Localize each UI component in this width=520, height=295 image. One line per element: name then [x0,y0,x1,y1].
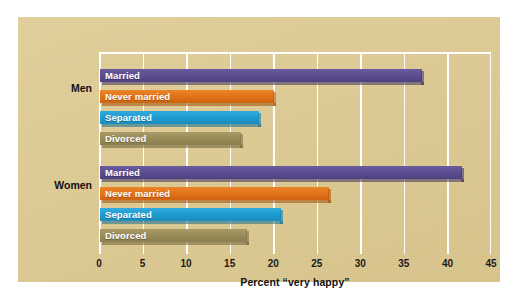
group-label-women: Women [32,179,92,191]
bar-men-never-married[interactable]: Never married [100,90,274,106]
plot-top-border [99,52,491,54]
bar-label-men-divorced: Divorced [105,132,146,145]
bar-shadow [102,200,331,203]
chart-panel: Men Women 051015202530354045 Married Nev… [18,17,500,282]
bar-men-divorced[interactable]: Divorced [100,132,241,148]
bar-women-never-married[interactable]: Never married [100,187,329,203]
x-axis-title: Percent “very happy” [99,276,491,288]
plot-area: 051015202530354045 Married Never married… [99,52,491,254]
chart-root: Men Women 051015202530354045 Married Nev… [0,0,520,295]
bar-shadow [102,82,424,85]
bar-men-separated[interactable]: Separated [100,111,259,127]
plot-right-border [490,52,492,254]
x-tick-10: 10 [181,258,192,269]
x-tick-0: 0 [96,258,102,269]
x-tick-30: 30 [355,258,366,269]
gridline-40 [447,52,449,254]
bar-shadow [102,124,261,127]
group-labels: Men Women [26,17,92,282]
x-tick-40: 40 [442,258,453,269]
bar-label-men-married: Married [105,69,140,82]
bar-shadow [102,103,276,106]
group-label-men: Men [32,82,92,94]
bar-women-separated[interactable]: Separated [100,208,281,224]
bar-women-married[interactable]: Married [100,166,462,182]
bar-shadow [102,179,464,182]
bar-shadow [102,242,249,245]
bar-women-divorced[interactable]: Divorced [100,229,247,245]
bar-face [100,69,422,82]
x-tick-15: 15 [224,258,235,269]
x-tick-45: 45 [485,258,496,269]
bar-men-married[interactable]: Married [100,69,422,85]
x-tick-5: 5 [140,258,146,269]
bar-label-men-never-married: Never married [105,90,170,103]
bar-label-women-separated: Separated [105,208,152,221]
bar-label-women-married: Married [105,166,140,179]
bar-label-men-separated: Separated [105,111,152,124]
x-tick-25: 25 [311,258,322,269]
x-tick-20: 20 [268,258,279,269]
bar-face [100,166,462,179]
bar-label-women-never-married: Never married [105,187,170,200]
bar-shadow [102,221,283,224]
bar-shadow [102,145,243,148]
x-tick-35: 35 [398,258,409,269]
bar-label-women-divorced: Divorced [105,229,146,242]
